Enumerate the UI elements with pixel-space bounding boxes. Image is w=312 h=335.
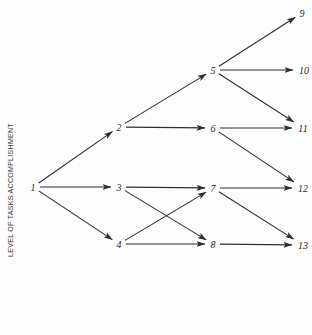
node-7: 7 <box>211 183 216 194</box>
node-5: 5 <box>211 65 216 76</box>
edge-6-to-12 <box>219 132 294 182</box>
edge-5-to-9 <box>219 17 295 66</box>
node-11: 11 <box>298 123 307 134</box>
node-3: 3 <box>117 182 122 193</box>
node-6: 6 <box>211 123 216 134</box>
node-13: 13 <box>298 240 308 251</box>
edge-4-to-7 <box>125 192 206 240</box>
task-flow-diagram: LEVEL OF TASKS ACCOMPLISHMENT 1234567891… <box>0 0 312 335</box>
node-9: 9 <box>300 8 305 19</box>
edge-5-to-11 <box>219 74 294 122</box>
edge-1-to-2 <box>39 132 113 183</box>
edge-7-to-13 <box>219 192 294 239</box>
node-10: 10 <box>299 65 309 76</box>
node-8: 8 <box>211 239 216 250</box>
edge-1-to-4 <box>39 191 113 240</box>
edge-3-to-8 <box>125 191 206 240</box>
edge-2-to-5 <box>125 74 206 123</box>
edge-3-to-7 <box>126 187 205 188</box>
node-12: 12 <box>298 183 308 194</box>
node-4: 4 <box>117 239 122 250</box>
node-1: 1 <box>31 182 36 193</box>
y-axis-label: LEVEL OF TASKS ACCOMPLISHMENT <box>7 123 14 257</box>
edges-layer <box>0 0 312 335</box>
edge-8-to-13 <box>220 244 292 245</box>
edge-2-to-6 <box>126 127 205 128</box>
node-2: 2 <box>117 122 122 133</box>
